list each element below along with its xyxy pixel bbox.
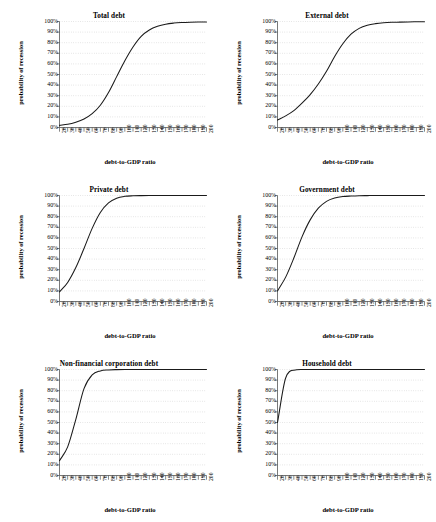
x-tick-label: 110 [135,473,141,481]
x-tick-labels: 2030405060708090100110120130140150160170… [0,0,218,174]
x-tick-label: 170 [184,472,190,481]
x-tick-label: 130 [370,298,376,307]
x-tick-label: 130 [370,124,376,133]
x-tick-label: 40 [78,475,84,481]
x-tick-label: 80 [329,475,335,481]
x-tick-label: 90 [337,301,343,307]
x-tick-label: 130 [152,472,158,481]
x-tick-label: 110 [353,473,359,481]
x-tick-label: 80 [111,475,117,481]
x-tick-label: 30 [288,475,294,481]
x-tick-label: 150 [386,298,392,307]
x-tick-labels: 2030405060708090100110120130140150160170… [218,174,436,348]
x-tick-label: 130 [152,124,158,133]
x-tick-label: 170 [402,472,408,481]
x-tick-label: 150 [168,472,174,481]
chart-panel: Private debtprobability of recessiondebt… [0,174,218,348]
x-tick-label: 190 [419,298,425,307]
x-tick-label: 60 [94,127,100,133]
x-tick-label: 140 [378,472,384,481]
x-tick-label: 160 [394,298,400,307]
x-tick-label: 40 [78,301,84,307]
x-tick-label: 160 [176,298,182,307]
x-tick-label: 20 [280,475,286,481]
x-tick-label: 200 [427,472,433,481]
x-tick-label: 170 [184,124,190,133]
x-tick-label: 140 [160,472,166,481]
x-tick-label: 40 [296,475,302,481]
x-tick-label: 50 [304,127,310,133]
x-tick-label: 90 [119,301,125,307]
x-tick-label: 180 [410,124,416,133]
x-tick-labels: 2030405060708090100110120130140150160170… [0,348,218,522]
x-tick-label: 170 [184,298,190,307]
x-tick-label: 160 [394,472,400,481]
x-tick-label: 90 [337,127,343,133]
x-tick-label: 200 [209,472,215,481]
x-tick-label: 100 [345,472,351,481]
x-tick-label: 140 [160,298,166,307]
x-tick-label: 100 [345,124,351,133]
x-tick-label: 170 [402,298,408,307]
x-tick-label: 120 [143,472,149,481]
x-tick-label: 70 [103,475,109,481]
x-tick-label: 150 [386,124,392,133]
x-tick-label: 120 [143,124,149,133]
x-tick-label: 160 [176,124,182,133]
x-tick-label: 70 [103,127,109,133]
figure-panel-grid: Total debtprobability of recessiondebt-t… [0,0,436,522]
x-tick-label: 90 [119,127,125,133]
x-tick-label: 190 [201,124,207,133]
x-tick-label: 80 [329,127,335,133]
x-tick-label: 30 [70,127,76,133]
x-tick-label: 180 [410,298,416,307]
x-tick-labels: 2030405060708090100110120130140150160170… [218,0,436,174]
x-tick-label: 70 [321,127,327,133]
x-tick-label: 180 [192,472,198,481]
x-tick-label: 180 [410,472,416,481]
chart-panel: Non-financial corporation debtprobabilit… [0,348,218,522]
x-tick-label: 90 [119,475,125,481]
x-tick-label: 200 [209,124,215,133]
x-tick-label: 30 [70,475,76,481]
x-tick-label: 190 [201,298,207,307]
x-tick-label: 50 [86,301,92,307]
x-tick-label: 170 [402,124,408,133]
x-tick-label: 50 [86,475,92,481]
x-tick-label: 150 [168,124,174,133]
x-tick-label: 50 [86,127,92,133]
chart-panel: Household debtprobability of recessionde… [218,348,436,522]
x-tick-label: 60 [312,127,318,133]
x-tick-label: 100 [345,298,351,307]
x-tick-label: 80 [111,301,117,307]
x-tick-label: 40 [296,127,302,133]
x-tick-label: 60 [312,475,318,481]
x-tick-label: 100 [127,298,133,307]
x-tick-label: 190 [419,124,425,133]
x-tick-label: 180 [192,124,198,133]
x-tick-label: 200 [427,298,433,307]
x-tick-label: 140 [378,298,384,307]
x-tick-label: 100 [127,124,133,133]
x-tick-label: 110 [353,299,359,307]
x-tick-label: 190 [419,472,425,481]
x-tick-label: 50 [304,301,310,307]
x-tick-label: 20 [280,301,286,307]
x-tick-label: 90 [337,475,343,481]
x-tick-label: 50 [304,475,310,481]
x-tick-label: 150 [168,298,174,307]
x-tick-label: 30 [70,301,76,307]
x-tick-labels: 2030405060708090100110120130140150160170… [0,174,218,348]
x-tick-label: 120 [143,298,149,307]
chart-panel: External debtprobability of recessiondeb… [218,0,436,174]
x-tick-label: 200 [427,124,433,133]
x-tick-label: 40 [296,301,302,307]
x-tick-label: 150 [386,472,392,481]
x-tick-label: 160 [394,124,400,133]
x-tick-label: 100 [127,472,133,481]
x-tick-label: 190 [201,472,207,481]
x-tick-label: 110 [353,125,359,133]
x-tick-label: 20 [280,127,286,133]
chart-panel: Total debtprobability of recessiondebt-t… [0,0,218,174]
x-tick-label: 140 [160,124,166,133]
